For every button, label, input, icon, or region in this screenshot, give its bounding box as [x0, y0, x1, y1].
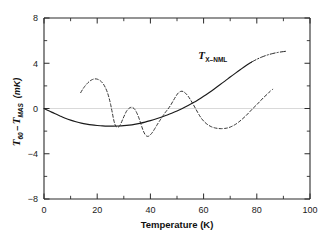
- y-tick-label: −4: [28, 149, 38, 159]
- x-tick-label: 60: [199, 205, 209, 215]
- figure-background: [0, 0, 334, 246]
- x-tick-label: 80: [252, 205, 262, 215]
- y-tick-label: 4: [33, 59, 38, 69]
- chart-plot: 020406080100 840−4−8 T X–NML Temperature…: [0, 0, 334, 246]
- x-tick-label: 20: [92, 205, 102, 215]
- x-tick-label: 40: [145, 205, 155, 215]
- x-axis-title: Temperature (K): [141, 219, 214, 230]
- y-tick-label: 8: [33, 13, 38, 23]
- tx-nml-annotation-subscript: X–NML: [205, 56, 227, 63]
- figure-container: 020406080100 840−4−8 T X–NML Temperature…: [0, 0, 334, 246]
- y-tick-label: 0: [33, 104, 38, 114]
- x-tick-label: 0: [41, 205, 46, 215]
- x-tick-label: 100: [302, 205, 317, 215]
- y-tick-label: −8: [28, 194, 38, 204]
